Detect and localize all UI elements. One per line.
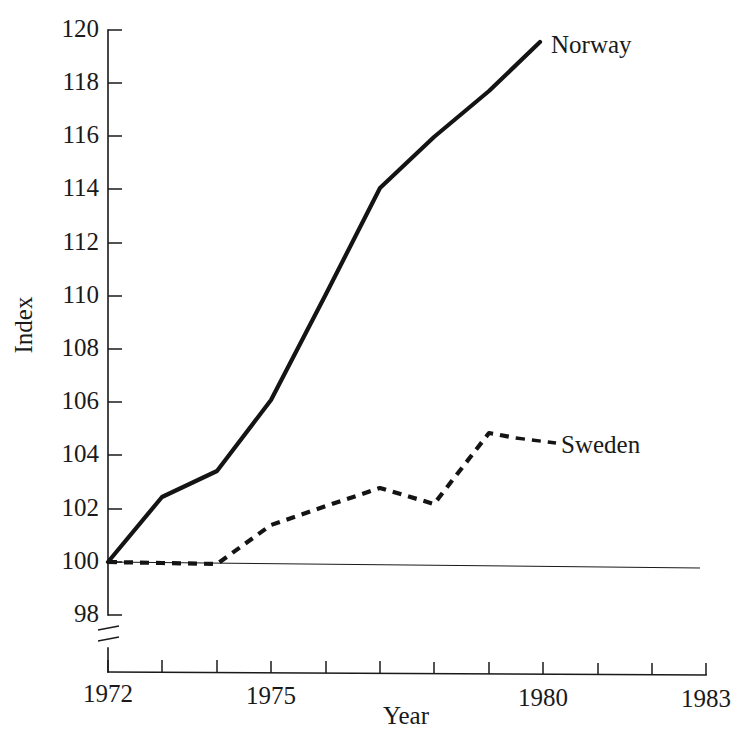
series-label-norway: Norway xyxy=(551,31,632,58)
y-tick-label-120: 120 xyxy=(62,15,100,42)
y-tick-label-112: 112 xyxy=(62,228,99,255)
series-leader-sweden xyxy=(516,438,556,443)
x-axis-title: Year xyxy=(383,702,430,729)
x-tick-label-1983: 1983 xyxy=(681,685,731,712)
y-axis-title: Index xyxy=(10,296,37,353)
axis-break-mark-upper xyxy=(98,626,119,630)
y-tick-label-98: 98 xyxy=(74,600,99,627)
y-tick-label-104: 104 xyxy=(62,440,100,467)
series-line-sweden xyxy=(108,433,516,564)
y-tick-label-114: 114 xyxy=(62,174,99,201)
y-tick-label-110: 110 xyxy=(62,281,99,308)
y-tick-group xyxy=(108,30,122,615)
y-tick-label-108: 108 xyxy=(62,334,100,361)
x-tick-label-1975: 1975 xyxy=(246,682,296,709)
x-tick-label-1972: 1972 xyxy=(83,680,133,707)
y-tick-label-102: 102 xyxy=(62,494,100,521)
chart-figure: 120 118 116 114 112 110 108 106 104 102 … xyxy=(0,0,740,741)
y-tick-labels: 120 118 116 114 112 110 108 106 104 102 … xyxy=(62,15,100,627)
line-chart-svg: 120 118 116 114 112 110 108 106 104 102 … xyxy=(0,0,740,741)
y-tick-label-106: 106 xyxy=(62,387,100,414)
x-tick-label-1980: 1980 xyxy=(518,684,568,711)
x-axis-line xyxy=(108,672,706,675)
series-label-sweden: Sweden xyxy=(561,431,641,458)
y-tick-label-118: 118 xyxy=(62,68,99,95)
axis-break-mark-lower xyxy=(98,637,119,641)
y-tick-label-100: 100 xyxy=(62,547,100,574)
y-tick-label-116: 116 xyxy=(62,121,99,148)
series-line-norway xyxy=(108,42,540,562)
